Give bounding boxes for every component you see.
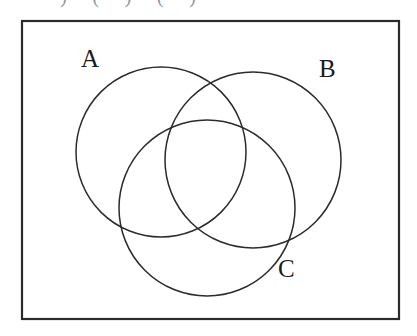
set-label-b: B [319, 56, 336, 81]
set-circle-b [165, 72, 341, 248]
set-label-a: A [81, 46, 99, 71]
set-circle-c [119, 120, 295, 296]
set-circle-a [76, 67, 246, 237]
venn-diagram-canvas [0, 0, 417, 336]
set-label-c: C [278, 256, 295, 281]
venn-diagram-figure: ) ( ) ( ) A B C [0, 0, 417, 336]
